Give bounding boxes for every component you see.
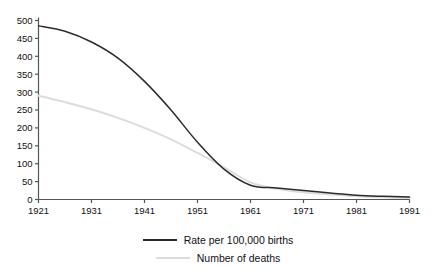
chart-figure: 0501001502002503003504004505001921193119… bbox=[0, 0, 436, 280]
x-axis-tick-label: 1991 bbox=[399, 205, 420, 216]
x-axis-tick-label: 1971 bbox=[293, 205, 314, 216]
y-axis-tick-label: 500 bbox=[17, 15, 33, 26]
legend-swatch-deaths-line bbox=[156, 257, 190, 259]
series-line-rate bbox=[39, 26, 410, 197]
y-axis-tick-label: 400 bbox=[17, 51, 33, 62]
y-axis-tick-label: 50 bbox=[22, 176, 33, 187]
legend-label-deaths: Number of deaths bbox=[197, 252, 280, 264]
line-chart-plot: 0501001502002503003504004505001921193119… bbox=[0, 0, 436, 232]
legend-item-rate: Rate per 100,000 births bbox=[143, 232, 294, 247]
x-axis-tick-label: 1951 bbox=[187, 205, 208, 216]
y-axis-tick-label: 450 bbox=[17, 33, 33, 44]
legend-label-rate: Rate per 100,000 births bbox=[184, 234, 294, 246]
y-axis-tick-label: 300 bbox=[17, 87, 33, 98]
legend-swatch-rate-line bbox=[143, 239, 177, 241]
y-axis-tick-label: 150 bbox=[17, 140, 33, 151]
x-axis-tick-label: 1961 bbox=[240, 205, 261, 216]
y-axis-tick-label: 100 bbox=[17, 158, 33, 169]
y-axis-tick-label: 250 bbox=[17, 104, 33, 115]
legend-item-deaths: Number of deaths bbox=[156, 250, 280, 265]
x-axis-tick-label: 1921 bbox=[28, 205, 49, 216]
series-line-deaths bbox=[39, 96, 410, 198]
x-axis-tick-label: 1981 bbox=[346, 205, 367, 216]
clipped-footer-row bbox=[0, 272, 436, 280]
y-axis-tick-label: 0 bbox=[27, 194, 32, 205]
x-axis-tick-label: 1931 bbox=[81, 205, 102, 216]
y-axis-tick-label: 200 bbox=[17, 122, 33, 133]
chart-legend: Rate per 100,000 births Number of deaths bbox=[0, 232, 436, 265]
y-axis-tick-label: 350 bbox=[17, 69, 33, 80]
x-axis-tick-label: 1941 bbox=[134, 205, 155, 216]
